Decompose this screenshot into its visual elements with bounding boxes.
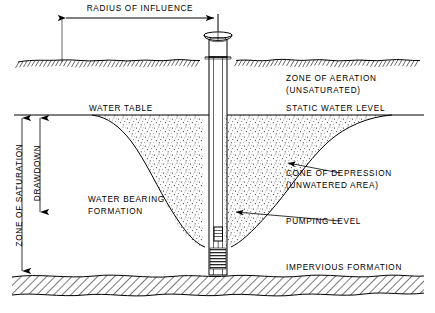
label-zone-of-aeration: ZONE OF AERATION	[286, 74, 377, 83]
label-formation: FORMATION	[88, 207, 143, 216]
label-pumping-level: PUMPING LEVEL	[286, 217, 361, 226]
label-static-water-level: STATIC WATER LEVEL	[286, 104, 385, 113]
label-impervious-formation: IMPERVIOUS FORMATION	[286, 263, 402, 272]
well-drawdown-diagram: RADIUS OF INFLUENCE ZONE OF SATURATION	[0, 0, 435, 313]
label-drawdown: DRAWDOWN	[33, 145, 42, 201]
label-radius-of-influence: RADIUS OF INFLUENCE	[87, 4, 194, 13]
impervious-formation	[12, 275, 424, 296]
label-cone-of-depression: CONE OF DEPRESSION	[286, 169, 392, 178]
label-unwatered-area: (UNWATERED AREA)	[286, 181, 379, 190]
well-screen	[210, 248, 226, 269]
diagram-canvas: RADIUS OF INFLUENCE ZONE OF SATURATION	[0, 0, 435, 313]
label-water-table: WATER TABLE	[89, 104, 153, 113]
label-zone-of-saturation: ZONE OF SATURATION	[15, 144, 24, 247]
label-unsaturated: (UNSATURATED)	[286, 86, 361, 95]
impervious-fill	[12, 275, 424, 296]
label-water-bearing: WATER BEARING	[88, 195, 165, 204]
